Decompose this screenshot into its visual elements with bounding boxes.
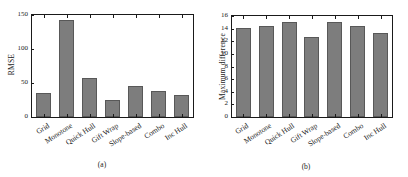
x-tick-mark [312,114,313,117]
y-tick-mark [31,15,34,16]
bar [350,26,365,117]
figure: 050100150 GridMonotoneQuick HullGift Wra… [0,0,408,177]
x-tick-mark [113,114,114,117]
x-tick-mark-top [44,15,45,18]
x-tick-mark-top [266,16,267,19]
bar-series-a [32,15,193,117]
panel-b: 0246810121416 GridMonotoneQuick HullGift… [204,0,408,177]
x-tick-mark-top [335,16,336,19]
bar [128,86,143,117]
panel-a: 050100150 GridMonotoneQuick HullGift Wra… [0,0,204,177]
panel-caption-a: (a) [0,160,204,169]
y-tick-mark [31,49,34,50]
x-tick-mark-top [381,16,382,19]
y-tick-mark [231,92,234,93]
x-tick-mark-top [113,15,114,18]
y-tick-mark [31,117,34,118]
x-tick-mark-top [90,15,91,18]
x-tick-mark [159,114,160,117]
bar [59,20,74,117]
y-axis-label-b: Maximum difference [218,29,227,105]
bar [327,22,342,117]
x-tick-mark [381,114,382,117]
y-tick-label: 150 [5,11,28,18]
x-tick-mark-top [136,15,137,18]
bar-series-b [232,16,392,117]
x-tick-mark-top [243,16,244,19]
x-tick-mark [289,114,290,117]
bar [259,26,274,117]
x-tick-mark-top [67,15,68,18]
y-tick-mark [31,83,34,84]
y-tick-mark [231,41,234,42]
x-tick-mark-top [358,16,359,19]
y-tick-mark [231,54,234,55]
y-tick-label: 16 [205,12,228,19]
bar [82,78,97,117]
panel-caption-b: (b) [204,162,408,171]
x-tick-mark [44,114,45,117]
bar [282,22,297,117]
y-tick-mark [231,104,234,105]
y-tick-mark [231,29,234,30]
x-tick-mark [90,114,91,117]
bar [304,37,319,117]
x-tick-mark-top [182,15,183,18]
x-tick-mark [335,114,336,117]
bar [236,28,251,117]
x-tick-mark [266,114,267,117]
bar [373,33,388,117]
y-tick-label: 0 [5,113,28,120]
x-tick-mark [358,114,359,117]
x-tick-mark [67,114,68,117]
x-tick-mark-top [312,16,313,19]
y-tick-mark [231,117,234,118]
y-tick-mark [231,67,234,68]
y-tick-label: 0 [205,113,228,120]
y-axis-label-a: RMSE [7,45,16,85]
x-tick-mark [136,114,137,117]
x-tick-mark [243,114,244,117]
y-tick-mark [231,16,234,17]
x-tick-mark-top [159,15,160,18]
y-tick-mark [231,79,234,80]
x-tick-mark [182,114,183,117]
x-tick-mark-top [289,16,290,19]
